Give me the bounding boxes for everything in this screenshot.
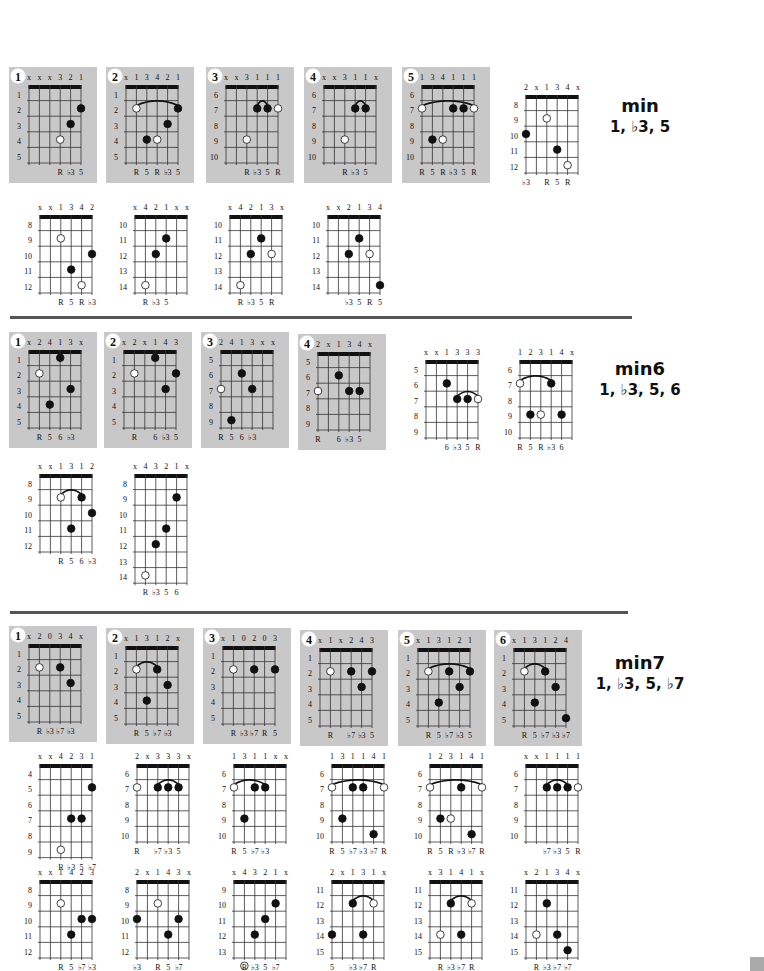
fret-number: 10 — [510, 132, 518, 141]
chord-diagram: 6x1312412345R5♭7♭3♭7 — [494, 630, 582, 746]
fret-number: 1 — [406, 654, 410, 663]
fret-number: 8 — [418, 801, 422, 810]
root-note-dot — [470, 105, 478, 113]
finger-number: x — [534, 752, 538, 761]
root-note-dot — [131, 370, 139, 378]
fret-number: 8 — [28, 221, 32, 230]
fret-number: 7 — [508, 381, 512, 390]
finger-dot — [564, 946, 572, 954]
finger-number: x — [576, 868, 580, 877]
finger-number: 3 — [437, 636, 441, 645]
chord-diagram: 4x1x24312345R♭7♭35 — [300, 630, 388, 746]
interval-label: ♭7 — [468, 847, 476, 856]
fret-number: 4 — [28, 770, 32, 779]
finger-dot — [78, 815, 86, 823]
finger-number: 1 — [59, 868, 63, 877]
fret-number: 6 — [312, 91, 316, 100]
chord-name: min7 — [580, 652, 700, 674]
diagram-shading — [298, 334, 386, 450]
fret-number: 12 — [218, 932, 226, 941]
fret-number: 10 — [24, 511, 32, 520]
finger-number: 1 — [59, 462, 63, 471]
fret-number: 10 — [414, 832, 422, 841]
finger-dot — [78, 494, 86, 502]
interval-label: 5 — [555, 178, 559, 187]
fret-number: 5 — [209, 356, 213, 365]
finger-dot — [162, 525, 170, 533]
fret-number: 12 — [510, 163, 518, 172]
nut — [40, 880, 93, 884]
fret-number: 10 — [119, 221, 127, 230]
finger-number: 1 — [361, 752, 365, 761]
interval-label: ♭3 — [88, 963, 96, 971]
fret-number: 4 — [308, 700, 312, 709]
fret-number: 9 — [214, 137, 218, 146]
interval-label: R — [231, 847, 237, 856]
root-note-dot — [133, 105, 141, 113]
interval-label: 5 — [273, 729, 277, 738]
fret-number: 6 — [306, 373, 310, 382]
interval-label: ♭3 — [88, 298, 96, 307]
interval-label: R — [58, 557, 64, 566]
fret-number: 3 — [406, 685, 410, 694]
finger-number: 1 — [58, 338, 62, 347]
nut — [40, 764, 93, 768]
finger-number: 3 — [145, 73, 149, 82]
interval-label: 5 — [177, 847, 181, 856]
finger-dot — [67, 266, 75, 274]
finger-number: 1 — [364, 73, 368, 82]
finger-number: 2 — [135, 868, 139, 877]
fret-number: 6 — [222, 770, 226, 779]
finger-dot — [261, 915, 269, 923]
finger-dot — [445, 668, 453, 676]
finger-number: x — [534, 83, 538, 92]
diagram-shading — [203, 628, 291, 744]
finger-number: 4 — [441, 73, 445, 82]
finger-number: x — [38, 462, 42, 471]
fret-number: 4 — [406, 700, 410, 709]
chord-diagram: 5134111678910R5R♭35R — [402, 67, 490, 183]
finger-dot — [527, 411, 535, 419]
fret-number: 12 — [121, 948, 129, 957]
fret-number: 14 — [316, 932, 324, 941]
finger-number: 3 — [58, 73, 62, 82]
diagram-number: 4 — [310, 70, 316, 84]
finger-number: 4 — [566, 83, 570, 92]
nut — [520, 360, 573, 364]
finger-dot — [359, 931, 367, 939]
interval-label: 5 — [263, 963, 267, 971]
finger-number: 4 — [229, 338, 233, 347]
interval-label: R — [315, 435, 321, 444]
finger-number: 2 — [438, 752, 442, 761]
fret-number: 5 — [17, 712, 21, 721]
chord-diagram: 42x134x56789R6♭35 — [298, 334, 386, 450]
finger-number: 3 — [555, 868, 559, 877]
interval-label: ♭7 — [457, 963, 465, 971]
finger-dot — [248, 385, 256, 393]
fret-number: 14 — [119, 283, 127, 292]
finger-number: x — [145, 752, 149, 761]
finger-number: 4 — [470, 752, 474, 761]
nut — [137, 880, 190, 884]
fret-number: 6 — [28, 801, 32, 810]
finger-number: 4 — [48, 338, 52, 347]
chord-diagram: 1xxx32112345R♭35 — [9, 67, 97, 183]
root-note-dot — [327, 668, 335, 676]
fret-number: 12 — [119, 252, 127, 261]
fret-number: 3 — [17, 122, 21, 131]
fret-number: 12 — [24, 542, 32, 551]
fret-number: 7 — [214, 106, 218, 115]
finger-dot — [464, 395, 472, 403]
fret-number: 9 — [125, 816, 129, 825]
fret-number: 8 — [508, 397, 512, 406]
finger-number: 3 — [449, 752, 453, 761]
root-note-dot — [243, 136, 251, 144]
finger-number: 1 — [566, 752, 570, 761]
finger-number: 3 — [466, 348, 470, 357]
interval-label: R — [231, 729, 237, 738]
finger-dot — [522, 130, 530, 138]
finger-dot — [347, 668, 355, 676]
finger-number: 1 — [468, 636, 472, 645]
interval-label: 6 — [337, 435, 341, 444]
finger-dot — [541, 668, 549, 676]
